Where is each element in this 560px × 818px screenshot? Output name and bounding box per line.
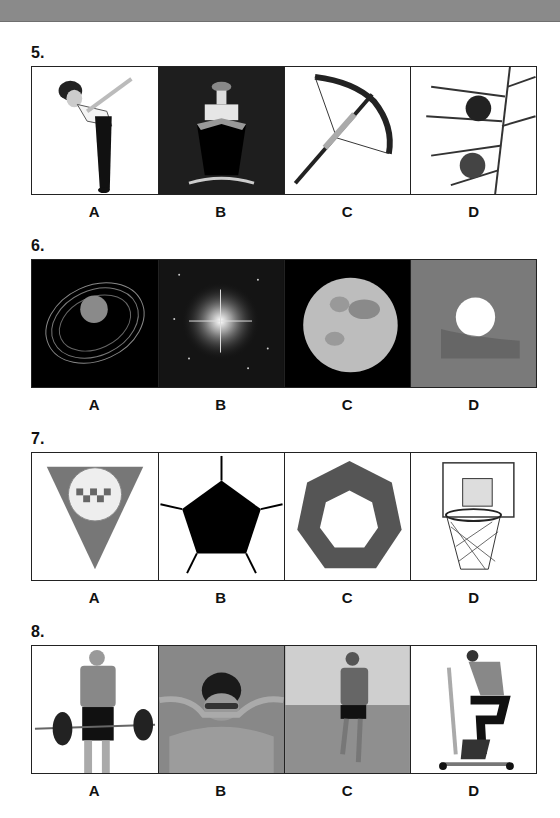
woman-bowing-icon	[32, 67, 158, 194]
crossbow-icon	[285, 67, 410, 194]
exercise-bike-icon	[411, 646, 536, 773]
option-a-image[interactable]	[32, 453, 158, 580]
moon-icon	[285, 260, 410, 387]
option-b-image[interactable]	[158, 260, 284, 387]
option-a-image[interactable]	[32, 646, 158, 773]
taxi-marker-icon	[32, 453, 158, 580]
question-5-options	[31, 66, 537, 195]
christmas-branch-icon	[411, 67, 536, 194]
option-d-image[interactable]	[410, 646, 536, 773]
option-label: C	[284, 396, 411, 413]
option-labels: A B C D	[31, 203, 537, 220]
basketball-hoop-icon	[411, 453, 536, 580]
option-d-image[interactable]	[410, 453, 536, 580]
sun-in-clouds-icon	[411, 260, 536, 387]
option-c-image[interactable]	[284, 260, 410, 387]
question-6-options	[31, 259, 537, 388]
option-label: D	[411, 782, 538, 799]
question-number: 7.	[31, 431, 44, 447]
option-a-image[interactable]	[32, 67, 158, 194]
option-label: A	[31, 396, 158, 413]
question-7-options	[31, 452, 537, 581]
option-label: B	[158, 203, 285, 220]
header-bar	[0, 0, 560, 22]
star-icon	[159, 260, 284, 387]
option-d-image[interactable]	[410, 260, 536, 387]
option-label: B	[158, 396, 285, 413]
option-d-image[interactable]	[410, 67, 536, 194]
option-labels: A B C D	[31, 782, 537, 799]
option-labels: A B C D	[31, 396, 537, 413]
swimmer-icon	[159, 646, 284, 773]
option-label: D	[411, 203, 538, 220]
pentagon-icon	[159, 453, 284, 580]
question-number: 5.	[31, 45, 44, 61]
option-label: D	[411, 589, 538, 606]
option-c-image[interactable]	[284, 67, 410, 194]
option-label: A	[31, 589, 158, 606]
option-label: A	[31, 782, 158, 799]
option-label: B	[158, 589, 285, 606]
runner-icon	[285, 646, 410, 773]
ringed-planet-icon	[32, 260, 158, 387]
option-c-image[interactable]	[284, 646, 410, 773]
heptagon-puzzle-icon	[285, 453, 410, 580]
option-label: C	[284, 203, 411, 220]
option-b-image[interactable]	[158, 646, 284, 773]
option-b-image[interactable]	[158, 453, 284, 580]
option-label: B	[158, 782, 285, 799]
weightlifter-icon	[32, 646, 158, 773]
option-label: A	[31, 203, 158, 220]
option-label: C	[284, 782, 411, 799]
option-a-image[interactable]	[32, 260, 158, 387]
question-number: 6.	[31, 238, 44, 254]
option-label: C	[284, 589, 411, 606]
option-label: D	[411, 396, 538, 413]
option-labels: A B C D	[31, 589, 537, 606]
question-number: 8.	[31, 624, 44, 640]
option-b-image[interactable]	[158, 67, 284, 194]
ship-icon	[159, 67, 284, 194]
question-8-options	[31, 645, 537, 774]
option-c-image[interactable]	[284, 453, 410, 580]
